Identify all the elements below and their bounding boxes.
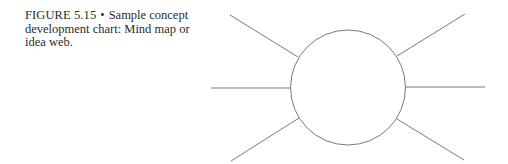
branch-lines — [211, 14, 485, 161]
center-node-circle — [291, 30, 406, 145]
mind-map-diagram — [0, 0, 508, 164]
branch-line-bottom-left — [231, 118, 299, 161]
branch-line-top-left — [230, 15, 298, 57]
branch-line-bottom-right — [397, 119, 464, 160]
branch-line-top-right — [397, 14, 465, 56]
